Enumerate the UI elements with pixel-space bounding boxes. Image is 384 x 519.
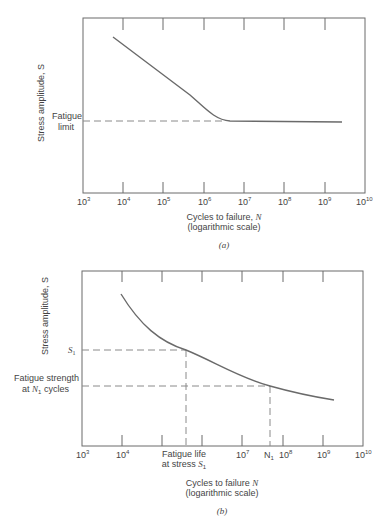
sn-curve-a [113,37,342,122]
svg-text:N1: N1 [264,450,275,461]
fatigue-life-label-2: at stress S1 [162,459,207,470]
chart-a-top-ticks [123,18,325,30]
chart-a-ylabel: Stress amplitude, S [36,64,46,142]
svg-text:107: 107 [236,449,250,460]
fatigue-limit-label-1: Fatigue [52,111,82,121]
fatigue-life-label-1: Fatigue life [162,449,206,459]
fatigue-strength-label-1: Fatigue strength [14,373,79,383]
fatigue-limit-label-2: limit [58,122,74,132]
sn-curve-b [121,294,334,400]
chart-b-top-ticks [122,271,323,282]
chart-a-caption: (a) [219,240,230,250]
svg-text:1010: 1010 [355,449,372,460]
chart-a: Stress amplitude, S Fatigue limit 103 10… [36,18,373,250]
svg-text:107: 107 [238,196,252,207]
chart-b-xtick-labels: 103 104 107 N1 108 109 1010 [76,449,372,461]
svg-text:109: 109 [317,449,331,460]
s1-label: S1 [68,345,76,356]
svg-text:103: 103 [77,196,91,207]
svg-text:108: 108 [278,196,292,207]
chart-b: Stress amplitude, S S1 Fatigue strength … [14,271,372,516]
chart-b-caption: (b) [217,506,228,516]
svg-text:104: 104 [116,449,130,460]
svg-text:104: 104 [117,196,131,207]
chart-b-guides [82,350,270,446]
chart-a-frame [83,18,365,193]
svg-text:108: 108 [279,449,293,460]
svg-text:109: 109 [318,196,332,207]
chart-a-xtick-labels: 103 104 105 106 107 108 109 1010 [77,196,373,207]
svg-text:103: 103 [76,449,90,460]
svg-text:105: 105 [157,196,171,207]
figure-canvas: Stress amplitude, S Fatigue limit 103 10… [0,0,384,519]
chart-b-xlabel: Cycles to failure N [186,478,260,488]
chart-b-frame [82,271,363,446]
svg-text:1010: 1010 [356,196,373,207]
chart-b-xlabel-sub: (logarithmic scale) [185,488,258,498]
chart-a-bottom-ticks [123,182,325,193]
fatigue-strength-label-2: at N1 cycles [22,384,69,395]
svg-text:106: 106 [198,196,212,207]
chart-a-xlabel-sub: (logarithmic scale) [187,222,260,232]
chart-b-ylabel: Stress amplitude, S [40,277,50,355]
chart-b-bottom-ticks [122,435,323,446]
chart-a-xlabel: Cycles to failure, N [186,212,262,222]
